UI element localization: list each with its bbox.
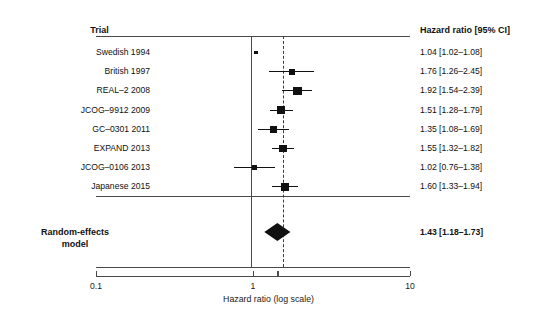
x-axis-tick [96,271,97,276]
x-axis-tick [410,271,411,276]
x-axis-tick-label: 10 [390,281,430,291]
x-axis-line [96,276,410,277]
pooled-hazard-ratio-value: 1.43 [1.18–1.73] [420,228,483,237]
forest-plot: Trial Hazard ratio [95% CI] Swedish 1994… [0,0,537,323]
x-axis-tick-label: 1 [233,281,273,291]
x-axis-tick [253,271,254,276]
x-axis-title: Hazard ratio (log scale) [0,294,537,304]
x-axis-tick-label: 0.1 [76,281,116,291]
pooled-diamond [0,0,537,323]
pooled-value-tick [277,271,278,276]
